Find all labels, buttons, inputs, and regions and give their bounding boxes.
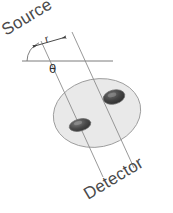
detector-label: Detector [80, 153, 146, 203]
figure-canvas: r θ Source Detector [0, 0, 173, 213]
sample-disk [47, 71, 146, 155]
sample-disk-group [47, 71, 146, 155]
angle-label: θ [49, 61, 56, 76]
scattering-geometry-figure: r θ Source Detector [0, 0, 173, 213]
radius-dimension-line [33, 37, 66, 47]
